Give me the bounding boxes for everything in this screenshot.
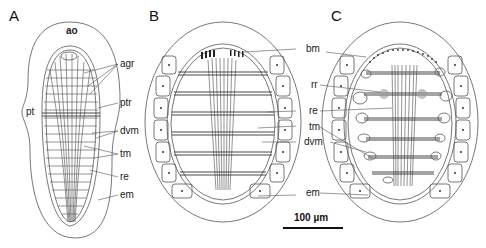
- figure-drawing: [0, 0, 486, 248]
- label-dvm-a: dvm: [120, 126, 139, 136]
- label-bm: bm: [306, 44, 320, 54]
- panel-b-drawing: [145, 22, 301, 222]
- panel-letter-b: B: [149, 8, 159, 23]
- panel-c-drawing: [320, 22, 478, 222]
- panel-letter-a: A: [9, 8, 19, 23]
- label-agr: agr: [120, 59, 134, 69]
- panel-letter-c: C: [331, 8, 342, 23]
- label-rr: rr: [311, 80, 318, 90]
- label-em-a: em: [120, 190, 134, 200]
- label-ao: ao: [66, 26, 78, 36]
- label-re: re: [309, 106, 318, 116]
- label-tm-a: tm: [120, 149, 131, 159]
- panel-a-drawing: [22, 22, 120, 238]
- label-dvm: dvm: [304, 137, 323, 147]
- label-em: em: [306, 188, 320, 198]
- label-tm: tm: [309, 122, 320, 132]
- label-re-a: re: [120, 172, 129, 182]
- label-pt: pt: [26, 107, 34, 117]
- figure-larval-musculature: A B C ao pt agr ptr dvm tm re em bm rr r…: [0, 0, 486, 248]
- scale-bar-label: 100 µm: [294, 213, 328, 223]
- label-ptr: ptr: [120, 98, 132, 108]
